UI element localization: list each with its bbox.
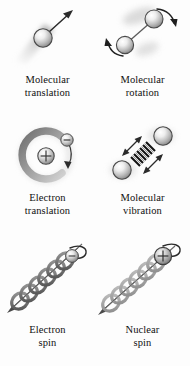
caption-nuclear-spin: Nuclear spin — [126, 322, 160, 349]
electron-spin-icon — [0, 238, 95, 322]
caption-molecular-vibration: Molecular vibration — [120, 190, 164, 217]
caption-line-1: Molecular — [120, 192, 164, 205]
caption-molecular-translation: Molecular translation — [25, 72, 70, 99]
caption-line-2: spin — [126, 337, 160, 350]
panel-molecular-translation: Molecular translation — [0, 0, 95, 118]
caption-line-1: Electron — [25, 192, 70, 205]
caption-line-1: Nuclear — [126, 324, 160, 337]
panel-molecular-rotation: Molecular rotation — [95, 0, 190, 118]
caption-electron-translation: Electron translation — [25, 190, 70, 217]
caption-line-2: translation — [25, 87, 70, 100]
caption-line-1: Molecular — [120, 74, 164, 87]
caption-line-2: spin — [29, 337, 65, 350]
caption-molecular-rotation: Molecular rotation — [120, 72, 164, 99]
nuclear-spin-icon — [95, 238, 190, 322]
molecular-vibration-icon — [95, 118, 190, 190]
caption-line-1: Electron — [29, 324, 65, 337]
molecular-translation-icon — [0, 0, 95, 72]
panel-electron-translation: Electron translation — [0, 118, 95, 236]
caption-line-2: translation — [25, 205, 70, 218]
caption-line-1: Molecular — [25, 74, 70, 87]
panel-nuclear-spin: Nuclear spin — [95, 236, 190, 366]
panel-electron-spin: Electron spin — [0, 236, 95, 366]
electron-translation-icon — [0, 118, 95, 190]
molecular-rotation-icon — [95, 0, 190, 72]
panel-grid: Molecular translation — [0, 0, 190, 366]
molecular-motion-figure: Molecular translation — [0, 0, 190, 366]
caption-line-2: rotation — [120, 87, 164, 100]
caption-electron-spin: Electron spin — [29, 322, 65, 349]
panel-molecular-vibration: Molecular vibration — [95, 118, 190, 236]
caption-line-2: vibration — [120, 205, 164, 218]
